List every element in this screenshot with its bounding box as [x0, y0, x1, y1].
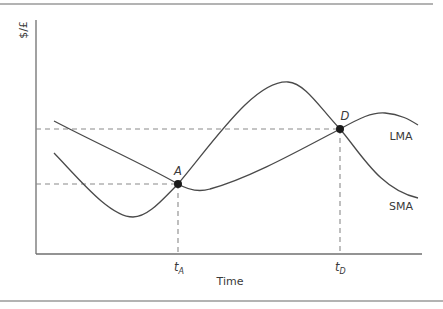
sma-curve: [54, 82, 418, 217]
tick-label-ta: tA: [174, 260, 184, 276]
moving-average-diagram: $/£ A D LMA SMA tA tD Time: [0, 0, 443, 309]
point-d-marker: [336, 125, 344, 133]
lma-label: LMA: [389, 130, 413, 143]
x-axis-label: Time: [216, 275, 244, 288]
point-d-label: D: [341, 109, 350, 123]
point-a-label: A: [173, 164, 182, 178]
lma-curve: [54, 113, 418, 191]
sma-label: SMA: [389, 200, 413, 213]
tick-label-td: tD: [335, 260, 346, 276]
point-a-marker: [174, 180, 182, 188]
y-axis-label: $/£: [17, 21, 30, 39]
